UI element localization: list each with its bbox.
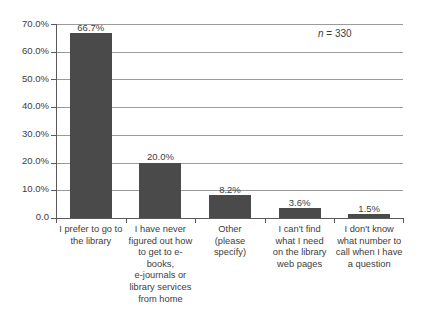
x-axis-label-4-line-2: what I need — [265, 236, 335, 248]
y-axis-label-20: 20.0% — [1, 156, 49, 166]
plot-area: 66.7% 20.0% 8.2% 3.6% 1.5% — [56, 24, 403, 218]
x-tick-1 — [126, 218, 127, 223]
x-axis-label-2: I have never figured out how to get to e… — [126, 224, 196, 305]
bar-value-4: 3.6% — [289, 197, 311, 208]
x-axis-label-1: I prefer to go to the library — [56, 224, 126, 247]
y-axis-label-30: 30.0% — [1, 129, 49, 139]
bar-value-2: 20.0% — [147, 151, 174, 162]
bar-slot-3: 8.2% — [195, 24, 265, 218]
bar-slot-1: 66.7% — [56, 24, 126, 218]
bar-value-3: 8.2% — [219, 184, 241, 195]
bar-value-5: 1.5% — [358, 203, 380, 214]
bar-slot-4: 3.6% — [265, 24, 335, 218]
x-axis-label-5-line-2: what number to — [334, 236, 404, 248]
x-axis-label-3-line-1: Other — [195, 224, 265, 236]
x-axis-label-4-line-1: I can't find — [265, 224, 335, 236]
y-axis-labels: 70.0% 60.0% 50.0% 40.0% 30.0% 20.0% 10.0… — [0, 0, 49, 319]
x-axis-line — [56, 218, 404, 219]
y-axis-label-50: 50.0% — [1, 74, 49, 84]
y-axis-label-0: 0.0 — [1, 212, 49, 222]
x-axis-label-2-line-4: e-journals or — [126, 270, 196, 282]
bar-slot-5: 1.5% — [334, 24, 404, 218]
x-axis-label-1-line-1: I prefer to go to — [56, 224, 126, 236]
y-axis-label-60: 60.0% — [1, 46, 49, 56]
y-axis-label-40: 40.0% — [1, 101, 49, 111]
bar-chart: 70.0% 60.0% 50.0% 40.0% 30.0% 20.0% 10.0… — [0, 0, 421, 319]
x-axis-label-5-line-1: I don't know — [334, 224, 404, 236]
x-axis-label-3-line-3: specify) — [195, 247, 265, 259]
x-tick-5 — [403, 218, 404, 223]
x-tick-0 — [56, 218, 57, 223]
bar-i-prefer-to-go-to-the-library[interactable] — [70, 33, 112, 218]
bar-value-1: 66.7% — [77, 22, 104, 33]
x-axis-label-1-line-2: the library — [56, 236, 126, 248]
bar-other-please-specify[interactable] — [209, 195, 251, 218]
x-tick-4 — [334, 218, 335, 223]
y-axis-label-10: 10.0% — [1, 184, 49, 194]
x-axis-label-4-line-3: on the library — [265, 247, 335, 259]
x-tick-2 — [195, 218, 196, 223]
sample-size-annotation: n = 330 — [318, 28, 352, 40]
y-axis-label-70: 70.0% — [1, 19, 49, 29]
bar-slot-2: 20.0% — [126, 24, 196, 218]
bar-cant-find-what-i-need[interactable] — [279, 208, 321, 218]
x-axis-label-4-line-4: web pages — [265, 259, 335, 271]
x-axis-label-2-line-2: figured out how — [126, 236, 196, 248]
sample-size-value: = 330 — [324, 28, 352, 39]
x-axis-label-3-line-2: (please — [195, 236, 265, 248]
x-axis-label-5-line-4: a question — [334, 259, 404, 271]
x-axis-label-5-line-3: call when I have — [334, 247, 404, 259]
bar-never-figured-out-remote-access[interactable] — [139, 163, 181, 218]
x-tick-3 — [265, 218, 266, 223]
x-axis-label-2-line-5: library services — [126, 282, 196, 294]
x-axis-labels: I prefer to go to the library I have nev… — [56, 224, 404, 316]
x-axis-label-5: I don't know what number to call when I … — [334, 224, 404, 270]
x-axis-label-3: Other (please specify) — [195, 224, 265, 259]
x-axis-label-2-line-1: I have never — [126, 224, 196, 236]
x-axis-label-2-line-3: to get to e-books, — [126, 247, 196, 270]
y-axis-line — [56, 24, 57, 219]
x-axis-label-2-line-6: from home — [126, 294, 196, 306]
x-axis-label-4: I can't find what I need on the library … — [265, 224, 335, 270]
